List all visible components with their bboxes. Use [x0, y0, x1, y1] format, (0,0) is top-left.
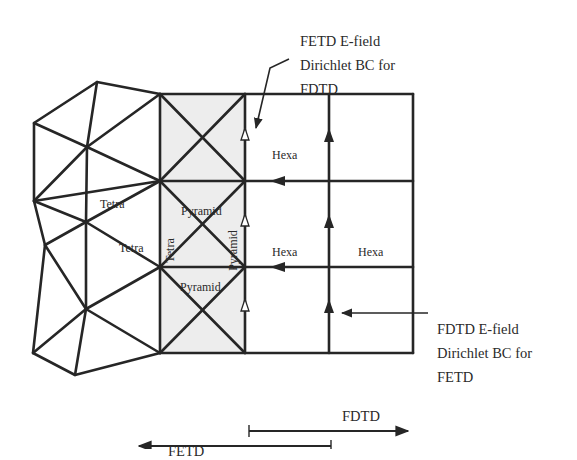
- label-tetra-vertical: Tetra: [163, 238, 178, 262]
- solid-arrow-icon: [270, 176, 285, 186]
- annotation-line: FDTD: [300, 77, 395, 101]
- solid-arrow-icon: [324, 128, 334, 142]
- solid-arrow-icon: [324, 299, 334, 313]
- annotation-line: Dirichlet BC for: [300, 53, 395, 77]
- fdtd-extent-arrow: [249, 425, 408, 437]
- annotation-line: FETD: [437, 365, 532, 389]
- solid-arrow-icon: [270, 262, 285, 272]
- label-hexa: Hexa: [358, 245, 383, 260]
- label-hexa: Hexa: [272, 245, 297, 260]
- fetd-bc-annotation: FETD E-field Dirichlet BC for FDTD: [300, 29, 395, 101]
- tetra-mesh: [33, 82, 160, 375]
- label-pyramid: Pyramid: [180, 280, 221, 295]
- fdtd-extent-label: FDTD: [342, 404, 380, 428]
- fdtd-bc-annotation: FDTD E-field Dirichlet BC for FETD: [437, 317, 532, 389]
- solid-arrow-icon: [324, 214, 334, 228]
- annotation-line: FETD E-field: [300, 29, 395, 53]
- label-tetra: Tetra: [119, 241, 143, 256]
- label-tetra: Tetra: [100, 197, 124, 212]
- annotation-line: FDTD E-field: [437, 317, 532, 341]
- fetd-extent-label: FETD: [168, 439, 204, 460]
- label-pyramid: Pyramid: [181, 204, 222, 219]
- label-hexa: Hexa: [272, 148, 297, 163]
- label-pyramid-vertical: Pyramid: [226, 230, 241, 271]
- annotation-line: Dirichlet BC for: [437, 341, 532, 365]
